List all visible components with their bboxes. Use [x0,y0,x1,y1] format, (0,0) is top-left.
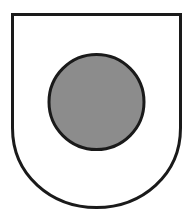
shield-figure [0,0,188,218]
roundel-charge [49,55,144,150]
